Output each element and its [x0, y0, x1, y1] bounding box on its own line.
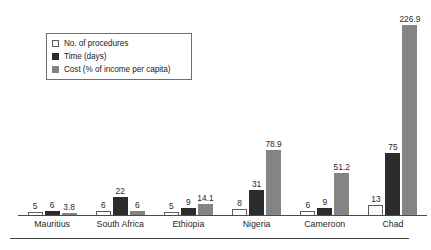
bar-chart: No. of procedures Time (days) Cost (% of… — [0, 0, 431, 250]
bar-1[interactable] — [385, 153, 400, 216]
bar-column: 13 — [368, 14, 383, 216]
bar-1[interactable] — [249, 190, 264, 216]
bar-column: 14.1 — [198, 14, 213, 216]
bar-column: 75 — [385, 14, 400, 216]
bar-column: 226.9 — [402, 14, 417, 216]
bar-value-label: 6 — [101, 201, 106, 210]
bar-column: 5 — [164, 14, 179, 216]
bar-column: 8 — [232, 14, 247, 216]
bar-value-label: 75 — [388, 143, 397, 152]
bar-2[interactable] — [266, 150, 281, 216]
bar-group-bars: 6226 — [86, 14, 154, 216]
bar-group: 6951.2 — [291, 14, 359, 216]
bar-group-bars: 6951.2 — [291, 14, 359, 216]
bar-value-label: 8 — [237, 199, 242, 208]
bar-2[interactable] — [402, 25, 417, 216]
bar-column: 5 — [28, 14, 43, 216]
bar-value-label: 226.9 — [399, 15, 420, 24]
bar-value-label: 51.2 — [334, 163, 350, 172]
footer-divider — [10, 238, 409, 239]
bar-group: 1375226.9 — [359, 14, 427, 216]
bar-group-bars: 5914.1 — [154, 14, 222, 216]
category-label: Ethiopia — [154, 219, 222, 230]
bar-column: 6 — [300, 14, 315, 216]
bar-value-label: 6 — [135, 201, 140, 210]
category-label: Mauritius — [18, 219, 86, 230]
bar-value-label: 9 — [322, 198, 327, 207]
bar-column: 9 — [317, 14, 332, 216]
bar-group-bars: 1375226.9 — [359, 14, 427, 216]
bar-1[interactable] — [113, 197, 128, 216]
bar-column: 3.8 — [62, 14, 77, 216]
bar-column: 6 — [45, 14, 60, 216]
plot-area: 563.862265914.183178.96951.21375226.9 — [18, 14, 427, 216]
x-axis-line — [18, 215, 427, 216]
bar-column: 78.9 — [266, 14, 281, 216]
bar-value-label: 5 — [169, 202, 174, 211]
category-label: Cameroon — [291, 219, 359, 230]
bar-value-label: 14.1 — [197, 194, 213, 203]
bar-value-label: 6 — [50, 201, 55, 210]
bar-group: 563.8 — [18, 14, 86, 216]
bar-column: 31 — [249, 14, 264, 216]
bar-value-label: 31 — [252, 180, 261, 189]
bar-group: 6226 — [86, 14, 154, 216]
bar-column: 51.2 — [334, 14, 349, 216]
bar-column: 22 — [113, 14, 128, 216]
bar-value-label: 78.9 — [265, 140, 281, 149]
bar-column: 9 — [181, 14, 196, 216]
category-label: Chad — [359, 219, 427, 230]
bar-group: 83178.9 — [223, 14, 291, 216]
bar-value-label: 9 — [186, 198, 191, 207]
bar-column: 6 — [96, 14, 111, 216]
category-label: South Africa — [86, 219, 154, 230]
bar-value-label: 5 — [33, 202, 38, 211]
bar-value-label: 3.8 — [63, 203, 75, 212]
bar-group: 5914.1 — [154, 14, 222, 216]
bar-column: 6 — [130, 14, 145, 216]
category-label: Nigeria — [223, 219, 291, 230]
bar-2[interactable] — [334, 173, 349, 216]
bar-value-label: 13 — [371, 195, 380, 204]
bar-value-label: 6 — [305, 201, 310, 210]
bar-value-label: 22 — [116, 187, 125, 196]
bar-group-bars: 83178.9 — [223, 14, 291, 216]
bar-group-bars: 563.8 — [18, 14, 86, 216]
